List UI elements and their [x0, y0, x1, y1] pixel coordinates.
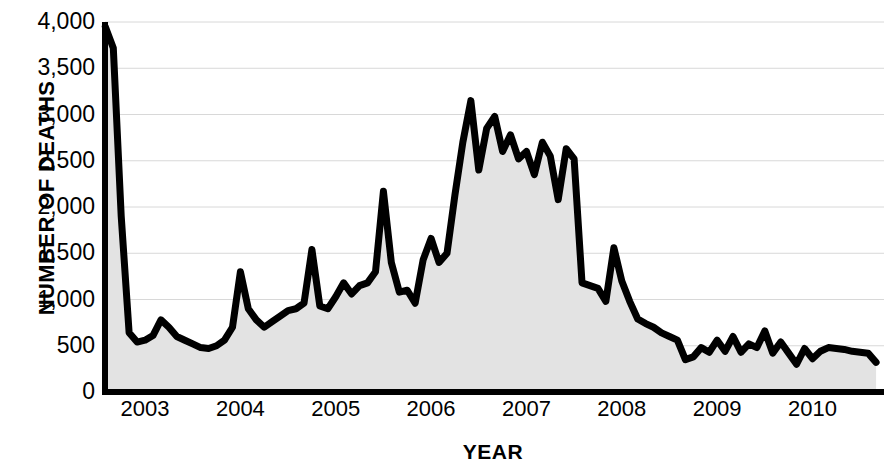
chart-container: NUMBER OF DEATHS YEAR 05001,0001,5002,00…: [0, 0, 896, 469]
area-chart-plot: [0, 0, 896, 469]
